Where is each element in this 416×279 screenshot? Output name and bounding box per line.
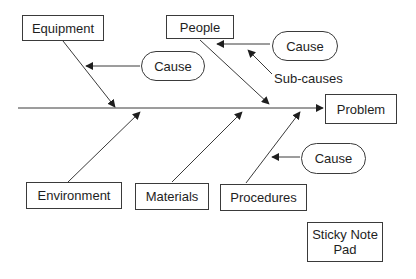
cause-procedures: Cause (301, 143, 366, 174)
category-equipment: Equipment (22, 15, 104, 41)
sub-causes-label: Sub-causes (274, 71, 343, 86)
problem-box: Problem (325, 94, 397, 124)
sticky-note-pad: Sticky Note Pad (307, 222, 383, 262)
cause-people: Cause (272, 31, 338, 61)
category-environment: Environment (26, 182, 122, 209)
category-procedures: Procedures (220, 184, 307, 211)
cause-equipment: Cause (141, 51, 205, 81)
category-people: People (166, 15, 234, 39)
category-materials: Materials (135, 183, 209, 210)
